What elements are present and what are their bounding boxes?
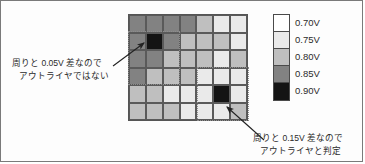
- annotation-non-outlier-line2: アウトライヤではない: [12, 70, 109, 83]
- legend-label: 0.90V: [295, 82, 320, 99]
- heatmap-cell: [196, 33, 213, 51]
- annotation-outlier-line2: アウトライヤと判定: [253, 145, 343, 158]
- heatmap-cell: [213, 103, 230, 121]
- legend: 0.70V0.75V0.80V0.85V0.90V: [273, 14, 320, 101]
- heatmap-cell: [129, 85, 146, 103]
- heatmap-cell: [146, 68, 163, 86]
- legend-swatch: [274, 83, 289, 100]
- heatmap-cell: [213, 68, 230, 86]
- heatmap-cell: [163, 33, 180, 51]
- heatmap-cell: [180, 50, 197, 68]
- legend-label: 0.75V: [295, 31, 320, 48]
- heatmap-cell: [163, 68, 180, 86]
- heatmap-cell: [163, 85, 180, 103]
- heatmap-cell: [146, 103, 163, 121]
- legend-swatch: [274, 15, 289, 32]
- heatmap-cell: [163, 50, 180, 68]
- legend-swatch: [274, 66, 289, 83]
- heatmap-cell: [196, 50, 213, 68]
- heatmap-cell: [146, 50, 163, 68]
- heatmap-cell: [129, 50, 146, 68]
- heatmap-cell: [230, 50, 247, 68]
- heatmap-cell: [180, 85, 197, 103]
- heatmap-cell: [129, 15, 146, 33]
- heatmap-cell: [213, 33, 230, 51]
- heatmap-cell: [230, 15, 247, 33]
- legend-swatch: [274, 49, 289, 66]
- heatmap-cell: [196, 85, 213, 103]
- heatmap-cell: [180, 33, 197, 51]
- heatmap-cell: [230, 68, 247, 86]
- legend-swatch: [274, 32, 289, 49]
- heatmap-cell: [129, 33, 146, 51]
- figure-container: 0.70V0.75V0.80V0.85V0.90V 周りと 0.05V 差なので…: [0, 0, 363, 162]
- heatmap-cell: [230, 103, 247, 121]
- heatmap-cell: [196, 15, 213, 33]
- heatmap-cell: [213, 15, 230, 33]
- annotation-outlier: 周りと 0.15V 差なので アウトライヤと判定: [253, 132, 343, 157]
- heatmap-grid: [128, 14, 248, 121]
- heatmap-cell: [213, 85, 230, 103]
- heatmap-cell: [146, 85, 163, 103]
- heatmap-cell: [163, 103, 180, 121]
- legend-labels: 0.70V0.75V0.80V0.85V0.90V: [295, 14, 320, 99]
- heatmap-cell: [180, 68, 197, 86]
- heatmap-cell: [146, 15, 163, 33]
- heatmap-cell: [213, 50, 230, 68]
- heatmap-cell: [129, 103, 146, 121]
- legend-label: 0.80V: [295, 48, 320, 65]
- legend-label: 0.85V: [295, 65, 320, 82]
- heatmap-cell: [180, 15, 197, 33]
- heatmap-cell: [230, 85, 247, 103]
- annotation-non-outlier-line1: 周りと 0.05V 差なので: [12, 57, 109, 70]
- legend-label: 0.70V: [295, 14, 320, 31]
- heatmap-cell: [196, 103, 213, 121]
- legend-colorbar: [273, 14, 290, 101]
- annotation-outlier-line1: 周りと 0.15V 差なので: [253, 132, 343, 145]
- heatmap-cell: [163, 15, 180, 33]
- annotation-non-outlier: 周りと 0.05V 差なので アウトライヤではない: [12, 57, 109, 82]
- heatmap-cell: [146, 33, 163, 51]
- heatmap-cell: [180, 103, 197, 121]
- heatmap-cell: [196, 68, 213, 86]
- heatmap-cell: [230, 33, 247, 51]
- heatmap-cell: [129, 68, 146, 86]
